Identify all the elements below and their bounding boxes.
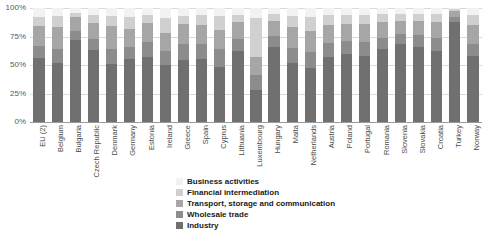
bar-segment xyxy=(341,8,352,15)
x-tick-label: Slovenia xyxy=(401,125,409,154)
stacked-bar[interactable] xyxy=(214,8,225,122)
plot-area xyxy=(30,8,482,122)
bar-segment xyxy=(395,21,406,35)
stacked-bar[interactable] xyxy=(160,8,171,122)
y-tick-label: 100% xyxy=(6,4,26,12)
legend-item[interactable]: Transport, storage and communication xyxy=(176,198,335,208)
bar-segment xyxy=(250,8,261,18)
stacked-bar[interactable] xyxy=(106,8,117,122)
x-label-slot: Slovenia xyxy=(392,124,410,182)
stacked-bar[interactable] xyxy=(88,8,99,122)
bar-segment xyxy=(250,18,261,57)
x-tick-label: Netherlands xyxy=(310,125,318,165)
bar-segment xyxy=(287,16,298,27)
bar-segment xyxy=(467,25,478,44)
bar-segment xyxy=(359,8,370,15)
bar-slot xyxy=(229,8,247,122)
x-label-slot: Germany xyxy=(120,124,138,182)
stacked-bar[interactable] xyxy=(467,8,478,122)
bar-segment xyxy=(142,57,153,122)
bar-slot xyxy=(211,8,229,122)
bar-segment xyxy=(305,52,316,68)
stacked-bar[interactable] xyxy=(395,8,406,122)
bar-segment xyxy=(305,68,316,122)
legend-item[interactable]: Industry xyxy=(176,220,335,230)
x-tick-label: Portugal xyxy=(364,125,372,153)
stacked-bar[interactable] xyxy=(341,8,352,122)
x-tick-label: Estonia xyxy=(148,125,156,150)
bar-slot xyxy=(428,8,446,122)
bar-segment xyxy=(413,35,424,46)
bar-segment xyxy=(431,38,442,52)
legend-item[interactable]: Business activities xyxy=(176,176,335,186)
bar-slot xyxy=(301,8,319,122)
bar-segment xyxy=(467,8,478,15)
stacked-bar[interactable] xyxy=(449,8,460,122)
stacked-bar[interactable] xyxy=(287,8,298,122)
stacked-bar[interactable] xyxy=(232,8,243,122)
bar-segment xyxy=(196,25,207,44)
x-tick-label: Slovakia xyxy=(419,125,427,153)
stacked-bar[interactable] xyxy=(268,8,279,122)
bar-segment xyxy=(377,22,388,38)
bar-segment xyxy=(33,58,44,122)
bar-segment xyxy=(395,14,406,21)
stacked-bar[interactable] xyxy=(70,8,81,122)
stacked-bar[interactable] xyxy=(413,8,424,122)
stacked-bar[interactable] xyxy=(323,8,334,122)
x-label-slot: Estonia xyxy=(138,124,156,182)
bar-segment xyxy=(196,15,207,25)
bar-slot xyxy=(464,8,482,122)
bar-segment xyxy=(70,17,81,31)
stacked-bar[interactable] xyxy=(52,8,63,122)
legend-label: Transport, storage and communication xyxy=(187,199,335,208)
x-label-slot: EU (2) xyxy=(30,124,48,182)
bar-segment xyxy=(287,63,298,122)
x-tick-label: Cyprus xyxy=(220,125,228,149)
x-tick-label: Bulgaria xyxy=(75,125,83,153)
bar-slot xyxy=(48,8,66,122)
stacked-bar[interactable] xyxy=(305,8,316,122)
bar-segment xyxy=(106,26,117,49)
bar-segment xyxy=(431,22,442,38)
bar-segment xyxy=(305,31,316,53)
bar-segment xyxy=(88,15,99,23)
bar-slot xyxy=(30,8,48,122)
stacked-bar[interactable] xyxy=(142,8,153,122)
x-label-slot: Spain xyxy=(193,124,211,182)
x-label-slot: Lithuania xyxy=(229,124,247,182)
stacked-bar[interactable] xyxy=(196,8,207,122)
stacked-bar[interactable] xyxy=(359,8,370,122)
stacked-bar[interactable] xyxy=(250,8,261,122)
bar-segment xyxy=(160,18,171,33)
stacked-bar[interactable] xyxy=(33,8,44,122)
x-tick-label: Romania xyxy=(383,125,391,155)
bar-segment xyxy=(70,40,81,122)
bar-slot xyxy=(373,8,391,122)
x-tick-label: Spain xyxy=(202,125,210,144)
stacked-bar[interactable] xyxy=(178,8,189,122)
x-label-slot: Hungary xyxy=(265,124,283,182)
bar-segment xyxy=(395,34,406,44)
bar-segment xyxy=(341,54,352,122)
legend-item[interactable]: Wholesale trade xyxy=(176,209,335,219)
bar-segment xyxy=(52,27,63,49)
x-label-slot: Belgium xyxy=(48,124,66,182)
x-tick-label: Lithuania xyxy=(238,125,246,155)
bar-segment xyxy=(214,16,225,30)
x-tick-label: Turkey xyxy=(455,125,463,148)
x-label-slot: Norway xyxy=(464,124,482,182)
stacked-bar[interactable] xyxy=(124,8,135,122)
legend-item[interactable]: Financial intermediation xyxy=(176,187,335,197)
bar-segment xyxy=(268,36,279,46)
bar-segment xyxy=(88,39,99,50)
stacked-bar[interactable] xyxy=(377,8,388,122)
stacked-bar[interactable] xyxy=(431,8,442,122)
bar-segment xyxy=(214,49,225,67)
x-label-slot: Slovakia xyxy=(410,124,428,182)
y-tick-label: 75% xyxy=(10,33,26,41)
x-label-slot: Ireland xyxy=(157,124,175,182)
x-label-slot: Portugal xyxy=(355,124,373,182)
bar-segment xyxy=(33,46,44,59)
x-label-slot: Austria xyxy=(319,124,337,182)
